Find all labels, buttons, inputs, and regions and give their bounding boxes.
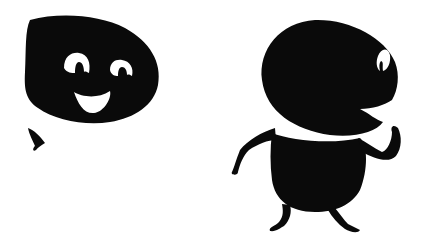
creature-leg-left <box>270 204 291 231</box>
spot-shape <box>28 128 45 151</box>
creature-leg-right <box>328 208 360 232</box>
creature-head <box>262 20 398 136</box>
illustration-canvas <box>0 0 423 237</box>
creature-body <box>271 133 367 212</box>
creature-arm-left <box>232 128 276 175</box>
walking-blob-creature <box>232 20 401 232</box>
smiling-blob-head <box>25 16 159 151</box>
